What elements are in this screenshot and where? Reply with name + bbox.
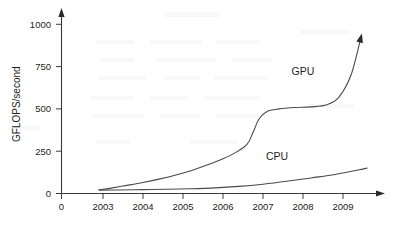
y-tick-label-0: 0	[46, 188, 51, 199]
y-tick-label-500: 500	[35, 103, 51, 114]
y-tick-label-250: 250	[35, 146, 51, 157]
y-axis-ticks	[56, 24, 62, 193]
x-tick-label-2009: 2009	[332, 201, 353, 212]
gpu-trend-arrow-icon	[356, 34, 363, 44]
y-tick-label-750: 750	[35, 61, 51, 72]
cpu-series-label: CPU	[266, 150, 288, 162]
y-axis-title: GFLOPS/second	[11, 66, 22, 142]
x-tick-label-2004: 2004	[132, 201, 153, 212]
chart-figure: 0 250 500 750 1000 GFLOPS/second 0 2003 …	[0, 0, 393, 231]
x-axis-arrow-icon	[376, 190, 385, 196]
chart-canvas: 0 250 500 750 1000 GFLOPS/second 0 2003 …	[0, 0, 393, 231]
gpu-series-label: GPU	[292, 65, 315, 77]
y-axis-arrow-icon	[58, 8, 64, 17]
x-tick-label-2006: 2006	[212, 201, 233, 212]
x-tick-label-2007: 2007	[252, 201, 273, 212]
gpu-series-line	[99, 37, 361, 190]
cpu-series-line	[99, 168, 367, 190]
x-tick-label-2008: 2008	[292, 201, 313, 212]
x-tick-label-2003: 2003	[92, 201, 113, 212]
x-axis-ticks	[62, 194, 344, 200]
y-tick-label-1000: 1000	[30, 19, 51, 30]
x-tick-label-2005: 2005	[172, 201, 193, 212]
x-tick-label-0: 0	[59, 201, 64, 212]
